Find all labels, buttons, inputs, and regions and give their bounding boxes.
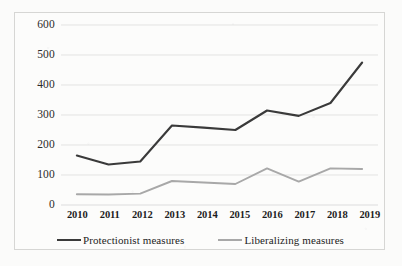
legend-item-2[interactable]: Liberalizing measures: [218, 234, 344, 246]
y-axis-tick-label: 300: [21, 109, 55, 121]
y-axis-tick-label: 500: [21, 49, 55, 61]
y-axis-tick-label: 400: [21, 79, 55, 91]
x-axis-tick-label: 2015: [224, 209, 257, 229]
x-axis-tick-labels: 2010201120122013201420152016201720182019: [61, 209, 386, 229]
x-axis-tick-label: 2014: [191, 209, 224, 229]
x-axis-tick-label: 2019: [354, 209, 387, 229]
series-line-2: [77, 168, 362, 194]
y-axis-tick-label: 200: [21, 139, 55, 151]
y-axis-tick-label: 0: [21, 199, 55, 211]
x-axis-tick-label: 2016: [256, 209, 289, 229]
legend-label: Liberalizing measures: [244, 234, 344, 246]
x-axis-tick-label: 2011: [94, 209, 127, 229]
legend-line-swatch: [57, 239, 81, 241]
legend-label: Protectionist measures: [83, 234, 185, 246]
chart-legend: Protectionist measuresLiberalizing measu…: [15, 229, 386, 251]
y-axis-tick-labels: 6005004003002001000: [19, 13, 55, 251]
legend-line-swatch: [218, 239, 242, 241]
y-axis-tick-label: 100: [21, 169, 55, 181]
x-axis-tick-label: 2018: [321, 209, 354, 229]
x-axis-tick-label: 2013: [159, 209, 192, 229]
series-line-1: [77, 63, 362, 165]
legend-item-1[interactable]: Protectionist measures: [57, 234, 185, 246]
gridlines: [61, 25, 378, 205]
x-axis-tick-label: 2017: [289, 209, 322, 229]
y-axis-tick-label: 600: [21, 19, 55, 31]
x-axis-tick-label: 2012: [126, 209, 159, 229]
chart-frame: 6005004003002001000 20102011201220132014…: [14, 12, 385, 250]
x-axis-tick-label: 2010: [61, 209, 94, 229]
